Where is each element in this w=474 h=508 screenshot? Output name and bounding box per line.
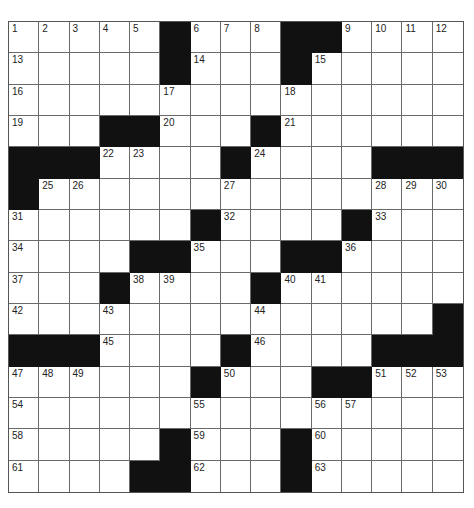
grid-cell[interactable]: [130, 335, 160, 366]
grid-cell[interactable]: [342, 179, 372, 210]
grid-cell[interactable]: [312, 116, 342, 147]
grid-cell[interactable]: [130, 53, 160, 84]
grid-cell[interactable]: 42: [9, 304, 39, 335]
grid-cell[interactable]: [39, 304, 69, 335]
grid-cell[interactable]: [251, 398, 281, 429]
grid-cell[interactable]: [70, 429, 100, 460]
grid-cell[interactable]: [130, 429, 160, 460]
grid-cell[interactable]: 50: [221, 367, 251, 398]
grid-cell[interactable]: [402, 116, 432, 147]
grid-cell[interactable]: [70, 85, 100, 116]
grid-cell[interactable]: [342, 53, 372, 84]
grid-cell[interactable]: 61: [9, 461, 39, 492]
grid-cell[interactable]: [433, 429, 463, 460]
grid-cell[interactable]: 31: [9, 210, 39, 241]
grid-cell[interactable]: [281, 147, 311, 178]
grid-cell[interactable]: [372, 429, 402, 460]
grid-cell[interactable]: [160, 179, 190, 210]
grid-cell[interactable]: [100, 241, 130, 272]
grid-cell[interactable]: [100, 367, 130, 398]
grid-cell[interactable]: [100, 53, 130, 84]
grid-cell[interactable]: [100, 429, 130, 460]
grid-cell[interactable]: [221, 241, 251, 272]
grid-cell[interactable]: [312, 85, 342, 116]
grid-cell[interactable]: 57: [342, 398, 372, 429]
grid-cell[interactable]: 29: [402, 179, 432, 210]
grid-cell[interactable]: [342, 273, 372, 304]
grid-cell[interactable]: [100, 461, 130, 492]
grid-cell[interactable]: [433, 273, 463, 304]
grid-cell[interactable]: 33: [372, 210, 402, 241]
grid-cell[interactable]: [402, 273, 432, 304]
grid-cell[interactable]: 51: [372, 367, 402, 398]
grid-cell[interactable]: 30: [433, 179, 463, 210]
grid-cell[interactable]: [191, 147, 221, 178]
grid-cell[interactable]: 20: [160, 116, 190, 147]
grid-cell[interactable]: [70, 398, 100, 429]
grid-cell[interactable]: [342, 304, 372, 335]
grid-cell[interactable]: [39, 116, 69, 147]
grid-cell[interactable]: 26: [70, 179, 100, 210]
grid-cell[interactable]: [191, 304, 221, 335]
grid-cell[interactable]: [100, 179, 130, 210]
grid-cell[interactable]: [130, 367, 160, 398]
grid-cell[interactable]: [342, 429, 372, 460]
grid-cell[interactable]: 59: [191, 429, 221, 460]
grid-cell[interactable]: [402, 429, 432, 460]
grid-cell[interactable]: [433, 116, 463, 147]
grid-cell[interactable]: 13: [9, 53, 39, 84]
grid-cell[interactable]: [372, 116, 402, 147]
grid-cell[interactable]: [433, 461, 463, 492]
grid-cell[interactable]: [251, 179, 281, 210]
grid-cell[interactable]: 21: [281, 116, 311, 147]
grid-cell[interactable]: [433, 53, 463, 84]
grid-cell[interactable]: [402, 241, 432, 272]
grid-cell[interactable]: 52: [402, 367, 432, 398]
grid-cell[interactable]: [221, 398, 251, 429]
grid-cell[interactable]: [221, 116, 251, 147]
grid-cell[interactable]: [402, 53, 432, 84]
grid-cell[interactable]: [342, 116, 372, 147]
grid-cell[interactable]: [312, 210, 342, 241]
grid-cell[interactable]: [372, 304, 402, 335]
grid-cell[interactable]: 54: [9, 398, 39, 429]
grid-cell[interactable]: 47: [9, 367, 39, 398]
grid-cell[interactable]: [251, 429, 281, 460]
grid-cell[interactable]: [160, 335, 190, 366]
grid-cell[interactable]: [372, 241, 402, 272]
grid-cell[interactable]: 48: [39, 367, 69, 398]
grid-cell[interactable]: 35: [191, 241, 221, 272]
grid-cell[interactable]: [100, 398, 130, 429]
grid-cell[interactable]: [281, 335, 311, 366]
grid-cell[interactable]: 16: [9, 85, 39, 116]
grid-cell[interactable]: 22: [100, 147, 130, 178]
grid-cell[interactable]: 12: [433, 22, 463, 53]
grid-cell[interactable]: [402, 304, 432, 335]
grid-cell[interactable]: 18: [281, 85, 311, 116]
grid-cell[interactable]: 24: [251, 147, 281, 178]
grid-cell[interactable]: 62: [191, 461, 221, 492]
grid-cell[interactable]: [251, 461, 281, 492]
grid-cell[interactable]: [100, 210, 130, 241]
grid-cell[interactable]: [342, 335, 372, 366]
grid-cell[interactable]: 4: [100, 22, 130, 53]
grid-cell[interactable]: [372, 461, 402, 492]
grid-cell[interactable]: [70, 116, 100, 147]
grid-cell[interactable]: [70, 304, 100, 335]
grid-cell[interactable]: [281, 367, 311, 398]
grid-cell[interactable]: [281, 210, 311, 241]
grid-cell[interactable]: [402, 398, 432, 429]
grid-cell[interactable]: [402, 210, 432, 241]
grid-cell[interactable]: 27: [221, 179, 251, 210]
grid-cell[interactable]: [221, 304, 251, 335]
grid-cell[interactable]: 6: [191, 22, 221, 53]
grid-cell[interactable]: [160, 398, 190, 429]
grid-cell[interactable]: [130, 398, 160, 429]
grid-cell[interactable]: 38: [130, 273, 160, 304]
grid-cell[interactable]: 32: [221, 210, 251, 241]
grid-cell[interactable]: 15: [312, 53, 342, 84]
grid-cell[interactable]: [39, 241, 69, 272]
grid-cell[interactable]: [70, 53, 100, 84]
grid-cell[interactable]: 40: [281, 273, 311, 304]
grid-cell[interactable]: [342, 147, 372, 178]
